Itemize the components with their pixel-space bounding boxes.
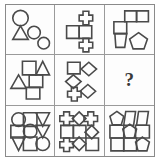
square-shape (136, 11, 148, 22)
square-shape (114, 22, 127, 34)
matrix-cell-row3-col2[interactable] (55, 106, 104, 156)
matrix-cell-row1-col3[interactable] (105, 5, 154, 55)
circle-shape (28, 26, 41, 39)
cross-shape (79, 38, 93, 52)
diamond-shape (81, 63, 96, 77)
diamond-shape (66, 75, 81, 89)
cell-figure-row1-col2 (55, 5, 103, 54)
square-shape (11, 125, 25, 138)
square-shape (67, 26, 80, 39)
matrix-cell-row1-col1[interactable] (6, 5, 55, 55)
cell-figure-row3-col1 (6, 106, 54, 156)
pentagon-shape (129, 33, 147, 49)
diamond-shape (73, 137, 87, 151)
square-shape (26, 88, 40, 100)
circle-shape (38, 37, 50, 49)
matrix-grid: ? (5, 4, 155, 157)
matrix-cell-row3-col1[interactable] (6, 106, 55, 156)
square-shape (86, 138, 99, 151)
triangle-down-shape (36, 112, 50, 126)
cross-shape (79, 11, 93, 25)
triangle-shape (36, 62, 50, 76)
pentagon-shape (135, 137, 149, 151)
square-shape (74, 125, 87, 138)
diamond-shape (85, 125, 99, 139)
quadrilateral-shape (136, 111, 148, 125)
square-shape (23, 137, 37, 151)
matrix-cell-answer-slot[interactable]: ? (105, 55, 154, 105)
square-shape (124, 11, 136, 22)
cell-figure-row2-col1 (6, 55, 54, 104)
circle-shape (13, 10, 28, 25)
square-shape (29, 75, 43, 88)
cell-figure-row1-col3 (105, 5, 154, 54)
square-shape (123, 138, 136, 151)
triangle-shape (13, 26, 28, 40)
square-shape (68, 63, 81, 75)
square-shape (111, 138, 124, 151)
square-shape (22, 62, 36, 76)
matrix-cell-row1-col2[interactable] (55, 5, 104, 55)
square-shape (61, 125, 74, 138)
triangle-shape (11, 75, 26, 89)
quadrilateral-shape (123, 111, 135, 125)
cell-figure-row2-col2 (55, 55, 103, 104)
cross-shape (60, 138, 74, 152)
square-shape (79, 26, 92, 39)
cell-figure-row1-col1 (6, 5, 54, 54)
cross-shape (68, 88, 82, 102)
matrix-puzzle-root: Visual analogy matrix (0, 0, 159, 162)
square-shape (110, 125, 124, 138)
diamond-shape (80, 85, 95, 99)
pentagon-shape (122, 124, 136, 138)
cell-figure-row3-col2 (55, 106, 103, 156)
cell-figure-row3-col3 (105, 106, 154, 156)
matrix-cell-row2-col2[interactable] (55, 55, 104, 105)
pentagon-shape (110, 111, 124, 124)
matrix-cell-row2-col1[interactable] (6, 55, 55, 105)
matrix-cell-row3-col3[interactable] (105, 106, 154, 156)
quadrilateral-shape (115, 34, 127, 48)
question-mark: ? (125, 70, 135, 89)
